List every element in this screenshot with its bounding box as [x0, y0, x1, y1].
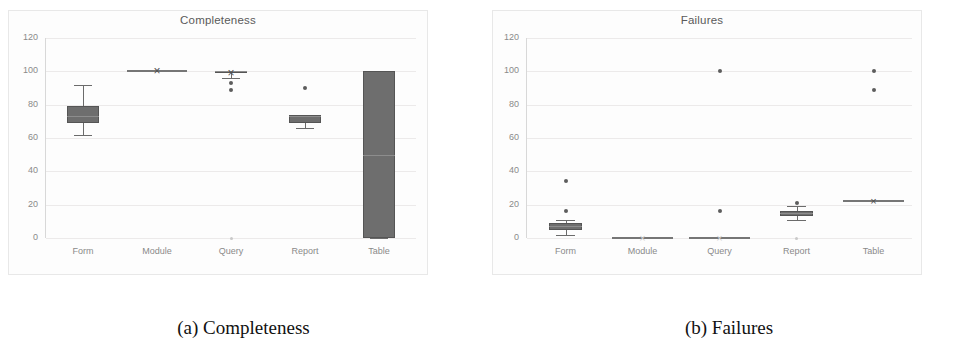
plot-area-completeness: 020406080100120FormModule×Query×ReportTa…	[46, 38, 416, 238]
chart-panels-row: Completeness 020406080100120FormModule×Q…	[0, 0, 971, 300]
boxplot-outlier-point	[795, 237, 798, 240]
y-axis-tick-label: 20	[4, 199, 38, 209]
boxplot-median-line	[780, 213, 812, 214]
y-axis-tick-label: 20	[485, 199, 519, 209]
y-axis-tick-label: 80	[4, 99, 38, 109]
x-axis-tick-label: Form	[46, 246, 120, 256]
x-axis-tick-label: Form	[527, 246, 604, 256]
boxplot-upper-cap	[787, 206, 806, 207]
caption-a: (a) Completeness	[0, 300, 487, 355]
y-axis-line	[45, 38, 46, 238]
boxplot-box	[67, 106, 98, 123]
boxplot-mean-marker-x-icon: ×	[716, 233, 722, 244]
boxplot-lower-cap	[74, 135, 93, 136]
gridline	[46, 171, 416, 172]
gridline	[527, 205, 912, 206]
boxplot-outlier-point	[564, 209, 568, 213]
boxplot-lower-cap	[296, 128, 315, 129]
x-axis-tick-label: Report	[268, 246, 342, 256]
boxplot-outlier-point	[229, 88, 233, 92]
y-axis-tick-label: 80	[485, 99, 519, 109]
y-axis-tick-label: 100	[4, 65, 38, 75]
gridline	[46, 105, 416, 106]
y-axis-tick-label: 60	[4, 132, 38, 142]
captions-row: (a) Completeness (b) Failures	[0, 300, 971, 355]
caption-b: (b) Failures	[487, 300, 971, 355]
boxplot-upper-cap	[556, 220, 575, 221]
gridline	[46, 138, 416, 139]
boxplot-mean-marker-x-icon: ×	[639, 233, 645, 244]
chart-title-completeness: Completeness	[0, 14, 436, 26]
y-axis-tick-label: 0	[485, 232, 519, 242]
boxplot-outlier-point	[303, 86, 307, 90]
boxplot-median-line	[67, 116, 98, 117]
x-axis-tick-label: Query	[681, 246, 758, 256]
y-axis-line	[526, 38, 527, 238]
x-axis-tick-label: Module	[120, 246, 194, 256]
boxplot-mean-marker-x-icon: ×	[153, 65, 160, 77]
y-axis-tick-label: 40	[4, 165, 38, 175]
plot-area-failures: 020406080100120FormModule×Query×ReportTa…	[527, 38, 912, 238]
gridline	[527, 105, 912, 106]
boxplot-mean-marker-x-icon: ×	[227, 67, 234, 79]
boxplot-outlier-point	[872, 88, 876, 92]
boxplot-outlier-point	[230, 237, 233, 240]
y-axis-tick-label: 100	[485, 65, 519, 75]
boxplot-median-line	[549, 226, 581, 227]
x-axis-tick-label: Report	[758, 246, 835, 256]
gridline	[527, 38, 912, 39]
y-axis-tick-label: 40	[485, 165, 519, 175]
figure-two-boxplots: Completeness 020406080100120FormModule×Q…	[0, 0, 971, 355]
boxplot-outlier-point	[564, 179, 568, 183]
gridline	[527, 138, 912, 139]
boxplot-outlier-point	[718, 209, 722, 213]
x-axis-tick-label: Module	[604, 246, 681, 256]
boxplot-mean-marker-x-icon: ×	[870, 196, 876, 207]
boxplot-median-line	[289, 116, 320, 117]
chart-title-failures: Failures	[487, 14, 917, 26]
gridline	[527, 171, 912, 172]
boxplot-outlier-point	[718, 69, 722, 73]
y-axis-tick-label: 60	[485, 132, 519, 142]
boxplot-outlier-point	[229, 81, 233, 85]
x-axis-tick-label: Query	[194, 246, 268, 256]
boxplot-outlier-point	[872, 69, 876, 73]
y-axis-tick-label: 120	[485, 32, 519, 42]
boxplot-upper-cap	[74, 85, 93, 86]
gridline	[46, 205, 416, 206]
boxplot-median-line	[363, 155, 394, 156]
y-axis-tick-label: 120	[4, 32, 38, 42]
boxplot-outlier-point	[795, 201, 799, 205]
panel-completeness: Completeness 020406080100120FormModule×Q…	[0, 0, 487, 300]
x-axis-tick-label: Table	[835, 246, 912, 256]
gridline	[46, 38, 416, 39]
panel-failures: Failures 020406080100120FormModule×Query…	[487, 0, 971, 300]
boxplot-lower-cap	[787, 220, 806, 221]
boxplot-lower-cap	[556, 235, 575, 236]
boxplot-lower-cap	[370, 238, 389, 239]
x-axis-tick-label: Table	[342, 246, 416, 256]
y-axis-tick-label: 0	[4, 232, 38, 242]
